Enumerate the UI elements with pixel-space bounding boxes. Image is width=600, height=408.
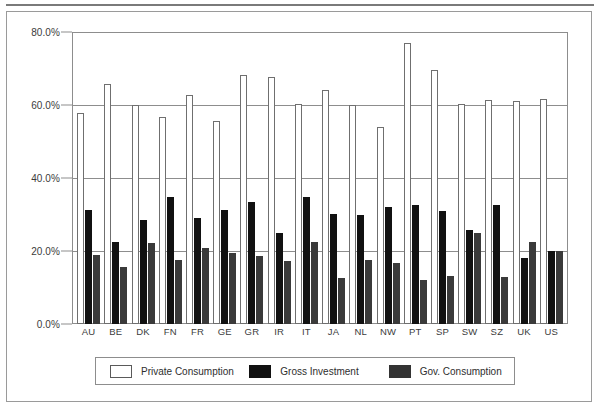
bar (295, 104, 302, 324)
bar (501, 277, 508, 324)
bar (439, 211, 446, 324)
bar (248, 202, 255, 324)
x-axis-tick-label: SZ (483, 326, 510, 337)
legend-item: Gross Investment (235, 365, 374, 378)
x-axis-tick-label: NW (374, 326, 401, 337)
legend-swatch-icon (110, 365, 132, 378)
bar (485, 100, 492, 324)
bar-group (374, 32, 401, 324)
chart-page: 0.0%20.0%40.0%60.0%80.0% AUBEDKFNFRGEGRI… (0, 0, 600, 408)
legend-swatch-icon (389, 365, 411, 378)
bar-group (266, 32, 293, 324)
bar (229, 253, 236, 324)
bar (120, 267, 127, 324)
x-axis-tick-label: JA (320, 326, 347, 337)
bar (357, 215, 364, 325)
bar (548, 251, 555, 324)
bar (493, 205, 500, 324)
bar (194, 218, 201, 324)
bar-group (320, 32, 347, 324)
x-axis-tick-label: GR (238, 326, 265, 337)
x-axis-tick-label: DK (129, 326, 156, 337)
bar-group (538, 32, 565, 324)
x-axis-labels: AUBEDKFNFRGEGRIRITJANLNWPTSPSWSZUKUS (72, 326, 568, 337)
bar (186, 95, 193, 324)
x-axis-tick-label: US (538, 326, 565, 337)
bar (93, 255, 100, 324)
legend-label: Private Consumption (141, 366, 234, 377)
bar-group (402, 32, 429, 324)
x-axis-tick-label: AU (75, 326, 102, 337)
y-axis-tick-label: 80.0% (31, 27, 60, 38)
plot-area (72, 32, 568, 324)
top-rule-divider (6, 4, 594, 6)
bar (385, 207, 392, 324)
bar (447, 276, 454, 324)
bar (303, 197, 310, 324)
x-axis-tick-label: UK (511, 326, 538, 337)
bar (404, 43, 411, 324)
bar (466, 230, 473, 324)
bar-group (429, 32, 456, 324)
bar (412, 205, 419, 324)
bar (349, 105, 356, 324)
bar-group (238, 32, 265, 324)
bar (529, 242, 536, 324)
bar (85, 210, 92, 324)
bar (112, 242, 119, 324)
bar (77, 113, 84, 324)
x-axis-tick-label: SW (456, 326, 483, 337)
x-axis-tick-label: FN (157, 326, 184, 337)
bar (338, 278, 345, 324)
x-axis-tick-label: IR (266, 326, 293, 337)
bar-group (293, 32, 320, 324)
y-axis-tick-label: 60.0% (31, 100, 60, 111)
legend-item: Private Consumption (96, 365, 235, 378)
bar (202, 248, 209, 324)
bar (377, 127, 384, 324)
bar (311, 242, 318, 324)
bar-group (129, 32, 156, 324)
bar-group (456, 32, 483, 324)
bar (140, 220, 147, 324)
y-axis-tick-label: 0.0% (37, 319, 60, 330)
bar (256, 256, 263, 324)
chart-legend: Private ConsumptionGross InvestmentGov. … (95, 357, 515, 385)
x-axis-tick-label: FR (184, 326, 211, 337)
bar (276, 233, 283, 324)
bar-group (157, 32, 184, 324)
bar (213, 121, 220, 324)
y-axis-tick-label: 20.0% (31, 246, 60, 257)
y-axis-tick-label: 40.0% (31, 173, 60, 184)
bar (540, 99, 547, 324)
bar (420, 280, 427, 324)
y-axis-tick (61, 251, 72, 252)
bar (431, 70, 438, 324)
bar (513, 101, 520, 324)
bar (159, 117, 166, 324)
bar (322, 90, 329, 324)
legend-swatch-icon (249, 365, 271, 378)
bar (104, 84, 111, 324)
y-axis-tick (61, 105, 72, 106)
bar-group (211, 32, 238, 324)
y-axis-tick (61, 324, 72, 325)
bar (330, 214, 337, 324)
bar (268, 77, 275, 324)
legend-label: Gross Investment (280, 366, 358, 377)
x-axis-tick-label: PT (402, 326, 429, 337)
y-axis-tick (61, 32, 72, 33)
bar (167, 197, 174, 324)
bar (365, 260, 372, 324)
x-axis-tick-label: GE (211, 326, 238, 337)
bar-group (483, 32, 510, 324)
bar (175, 260, 182, 324)
bar (556, 251, 563, 324)
bar-group (511, 32, 538, 324)
x-axis-tick-label: NL (347, 326, 374, 337)
bar (284, 261, 291, 324)
bar-group (102, 32, 129, 324)
bar (393, 263, 400, 324)
legend-item: Gov. Consumption (375, 365, 514, 378)
y-axis: 0.0%20.0%40.0%60.0%80.0% (0, 0, 72, 408)
